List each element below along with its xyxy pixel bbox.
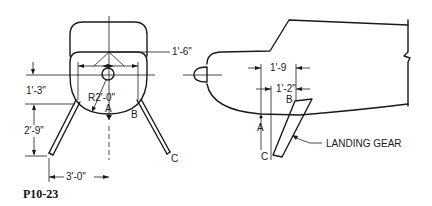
dim-radius: R2'-0" — [88, 92, 116, 103]
break-line — [404, 20, 410, 106]
front-view: 1'-6" 1'-3" R2'-0" A B C 2'-9" — [22, 16, 192, 183]
dim-top-width: 1'-6" — [172, 46, 192, 57]
side-point-a: A — [257, 122, 264, 133]
front-canopy-outline — [70, 22, 147, 56]
side-view: 1'-9 1'-2" B A C LANDING GEAR — [183, 20, 410, 162]
dim-hub-offset: 1'-3" — [26, 85, 46, 96]
front-point-c: C — [171, 153, 178, 164]
dim-leg-spread: 3'-0" — [66, 171, 86, 182]
side-point-c: C — [261, 151, 268, 162]
figure-id: P10-23 — [23, 187, 58, 201]
landing-gear-strut — [273, 99, 312, 157]
dim-leg-height: 2'-9" — [24, 125, 44, 136]
left-landing-leg — [49, 100, 80, 155]
landing-gear-label: LANDING GEAR — [326, 138, 402, 149]
dim-side-lower: 1'-2" — [276, 83, 296, 94]
fuselage-outline — [207, 20, 408, 64]
spinner — [194, 67, 207, 82]
right-landing-leg — [137, 99, 170, 154]
hub-circle — [102, 68, 114, 80]
front-point-a: A — [105, 103, 112, 114]
diagram: 1'-6" 1'-3" R2'-0" A B C 2'-9" — [0, 0, 432, 206]
front-point-b: B — [131, 109, 138, 120]
dim-side-upper: 1'-9 — [270, 62, 287, 73]
side-point-b: B — [286, 94, 293, 105]
